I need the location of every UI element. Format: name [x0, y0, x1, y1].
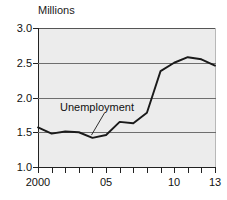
annotation-leader-line [91, 113, 104, 135]
unemployment-annotation-label: Unemployment [60, 101, 134, 113]
unemployment-series-line [38, 57, 215, 138]
series-layer [0, 0, 227, 200]
unemployment-line-chart: Millions 1.01.52.02.53.0 2000051013 Unem… [0, 0, 227, 200]
